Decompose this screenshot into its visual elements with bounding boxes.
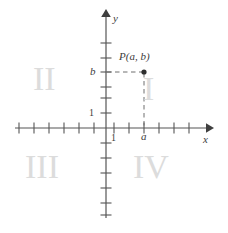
- y-axis-arrowhead: [101, 9, 111, 17]
- x-axis-label: x: [203, 134, 208, 145]
- x-axis-arrowhead: [206, 123, 214, 133]
- x-axis-tick-label-one: 1: [111, 133, 116, 143]
- y-axis-label: y: [113, 13, 118, 24]
- quadrant-label-i: I: [143, 72, 154, 106]
- y-axis-tick-label-one: 1: [89, 108, 94, 118]
- quadrant-label-iii: III: [25, 150, 59, 184]
- y-coordinate-label-b: b: [90, 66, 96, 77]
- axes-svg: [0, 0, 228, 233]
- point-p-label: P(a, b): [119, 51, 150, 62]
- x-coordinate-label-a: a: [141, 131, 147, 142]
- quadrant-label-iv: IV: [133, 150, 169, 184]
- coordinate-plane-figure: I II III IV y x 1 1 b a P(a, b): [0, 0, 228, 233]
- quadrant-label-ii: II: [33, 62, 56, 96]
